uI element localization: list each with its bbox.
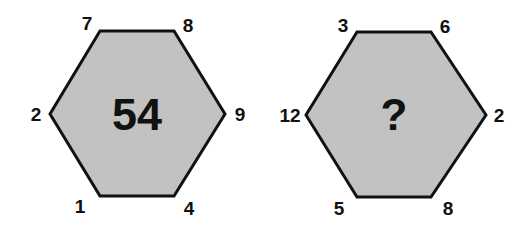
hexagon-2-right-value: 2 [494,105,505,126]
hexagon-1-top-right-value: 8 [183,15,194,36]
hexagon-1: 54 7 8 9 4 1 2 [31,13,246,219]
hexagon-1-bottom-right-value: 4 [184,198,195,219]
hexagon-1-center-value: 54 [112,90,163,139]
hexagon-1-bottom-left-value: 1 [75,196,86,217]
hexagon-2-top-left-value: 3 [338,15,349,36]
hexagon-1-left-value: 2 [31,104,42,125]
hexagon-1-right-value: 9 [235,104,246,125]
puzzle-canvas: 54 7 8 9 4 1 2 ? 3 6 2 8 5 12 [0,0,531,235]
hexagon-2-bottom-right-value: 8 [443,198,454,219]
hexagon-1-top-left-value: 7 [82,13,93,34]
hexagon-2-left-value: 12 [279,105,300,126]
hexagon-2-center-value: ? [381,90,408,139]
hexagon-2-top-right-value: 6 [440,16,451,37]
hexagon-2-bottom-left-value: 5 [334,198,345,219]
hexagon-2: ? 3 6 2 8 5 12 [279,15,504,219]
